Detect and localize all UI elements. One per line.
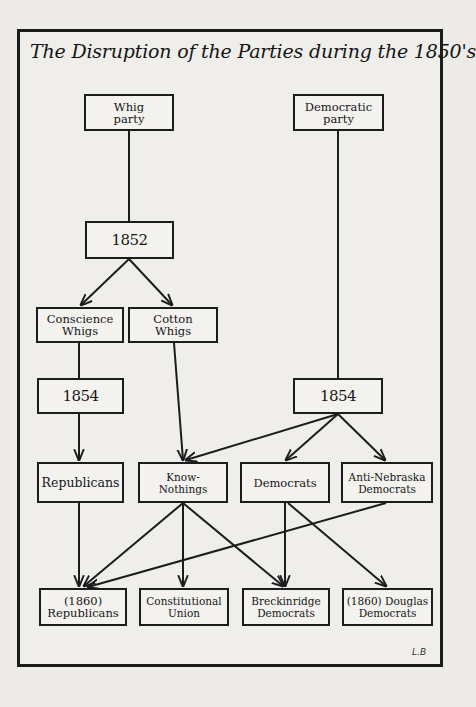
node-label: Constitutional Union (146, 595, 221, 619)
node-label: (1860) Republicans (47, 595, 119, 619)
node-democrats: Democrats (240, 462, 330, 503)
node-anti-nebraska-democrats: Anti-Nebraska Democrats (341, 462, 433, 503)
node-label: (1860) Douglas Democrats (347, 595, 428, 619)
node-whig-party: Whig party (84, 94, 174, 131)
edge-1852-to-conscience (81, 259, 129, 305)
node-conscience-whigs: Conscience Whigs (36, 307, 124, 343)
edge-dem1854-to-knownothings (186, 414, 338, 460)
node-label: Republicans (42, 477, 120, 489)
node-label: Know-Nothings (142, 471, 224, 495)
node-constitutional-union: Constitutional Union (139, 588, 229, 626)
node-cotton-whigs: Cotton Whigs (128, 307, 218, 343)
node-label: 1854 (320, 390, 356, 402)
edge-1852-to-cotton (129, 259, 172, 305)
node-label: Democratic party (305, 101, 372, 125)
node-label: Whig party (114, 101, 145, 125)
edge-cotton-to-knownothings (174, 343, 183, 460)
edge-democrats-to-douglas (288, 503, 386, 586)
node-republicans: Republicans (37, 462, 124, 503)
node-label: Cotton Whigs (153, 313, 192, 337)
node-label: Breckinridge Democrats (251, 595, 320, 619)
edge-dem1854-to-antinebraska (338, 414, 385, 460)
node-label: 1854 (62, 390, 98, 402)
node-breckinridge-democrats: Breckinridge Democrats (242, 588, 330, 626)
artist-signature: L.B (412, 647, 426, 657)
node-1860-douglas-democrats: (1860) Douglas Democrats (342, 588, 433, 626)
node-1852: 1852 (85, 221, 174, 259)
node-1854-democratic: 1854 (293, 378, 383, 414)
node-democratic-party: Democratic party (293, 94, 384, 131)
node-label: 1852 (111, 234, 147, 246)
edge-knownothings-to-breckinridge (183, 503, 283, 586)
node-1860-republicans: (1860) Republicans (39, 588, 127, 626)
node-know-nothings: Know-Nothings (138, 462, 228, 503)
node-1854-whig: 1854 (37, 378, 124, 414)
node-label: Conscience Whigs (47, 313, 114, 337)
node-label: Anti-Nebraska Democrats (349, 471, 426, 495)
node-label: Democrats (253, 477, 316, 489)
